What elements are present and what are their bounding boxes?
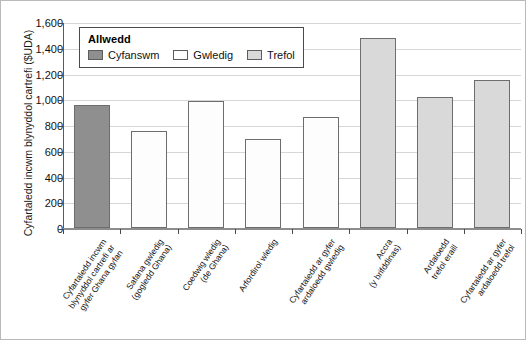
- legend-title: Allwedd: [88, 33, 295, 45]
- legend-swatch-icon: [247, 50, 262, 60]
- x-tick-mark: [235, 229, 236, 234]
- x-tick-label: Accra(y brifddinas): [308, 237, 403, 340]
- legend-item-label: Gwledig: [193, 49, 233, 61]
- y-tick-label: 1,600: [21, 17, 63, 29]
- x-tick-mark: [464, 229, 465, 234]
- y-axis-ticks: 02004006008001,0001,2001,4001,600: [1, 1, 63, 340]
- x-tick-label-line: trefol eraill: [373, 243, 460, 340]
- x-tick-label-line: Arfordirol wledig: [193, 237, 280, 340]
- x-tick-label: Cyfartaledd ar gyferardaloedd gwledig: [250, 237, 345, 340]
- x-tick-label-line: Cyfartaledd ar gyfer: [422, 237, 509, 340]
- y-tick-label: 600: [21, 146, 63, 158]
- x-tick-mark: [407, 229, 408, 234]
- y-tick-label: 400: [21, 172, 63, 184]
- bar: [74, 105, 110, 228]
- bar: [245, 139, 281, 228]
- legend-swatch-icon: [88, 50, 103, 60]
- x-tick-label-line: (gogledd Ghana): [87, 243, 174, 340]
- x-tick-label-line: ardaloedd trefol: [431, 243, 518, 340]
- x-tick-label: Cyfartaledd ar gyferardaloedd trefol: [422, 237, 517, 340]
- x-tick-mark: [63, 229, 64, 234]
- legend-swatch-icon: [173, 50, 188, 60]
- bar: [417, 97, 453, 228]
- x-tick-label-line: Accra: [308, 237, 395, 340]
- x-tick-mark: [178, 229, 179, 234]
- legend-items: CyfanswmGwledigTrefol: [88, 49, 295, 61]
- bar: [474, 80, 510, 228]
- chart-figure: Cyfartaledd incwm blynyddol cartrefi ($U…: [0, 0, 526, 340]
- x-tick-mark: [349, 229, 350, 234]
- bar: [131, 131, 167, 228]
- x-tick-mark: [292, 229, 293, 234]
- legend-item-label: Cyfanswm: [108, 49, 159, 61]
- x-tick-label-line: Cyfartaledd ar gyfer: [250, 237, 337, 340]
- y-tick-label: 0: [21, 223, 63, 235]
- x-tick-label: Arfordirol wledig: [193, 237, 280, 340]
- x-tick-mark: [521, 229, 522, 234]
- bar: [360, 38, 396, 228]
- x-tick-label-line: Ardaloedd: [365, 237, 452, 340]
- legend-item-label: Trefol: [267, 49, 295, 61]
- x-tick-label-line: ardaloedd gwledig: [259, 243, 346, 340]
- y-axis-line: [63, 23, 64, 229]
- legend-box: Allwedd CyfanswmGwledigTrefol: [79, 27, 304, 68]
- bar: [303, 117, 339, 228]
- x-tick-label-line: Safana gwledig: [79, 237, 166, 340]
- legend-item: Cyfanswm: [88, 49, 159, 61]
- x-tick-label-line: Coedwig wledig: [136, 237, 223, 340]
- legend-item: Trefol: [247, 49, 295, 61]
- y-tick-label: 1,400: [21, 43, 63, 55]
- x-tick-label: Ardaloeddtrefol eraill: [365, 237, 460, 340]
- bar: [188, 101, 224, 228]
- x-tick-label: Safana gwledig(gogledd Ghana): [79, 237, 174, 340]
- y-tick-label: 1,000: [21, 94, 63, 106]
- x-tick-label-line: (de Ghana): [144, 243, 231, 340]
- x-tick-mark: [120, 229, 121, 234]
- legend-item: Gwledig: [173, 49, 233, 61]
- gridline: [63, 23, 521, 24]
- gridline: [63, 75, 521, 76]
- y-tick-label: 200: [21, 197, 63, 209]
- y-tick-label: 800: [21, 120, 63, 132]
- x-tick-label: Coedwig wledig(de Ghana): [136, 237, 231, 340]
- y-tick-label: 1,200: [21, 69, 63, 81]
- x-tick-label-line: (y brifddinas): [316, 243, 403, 340]
